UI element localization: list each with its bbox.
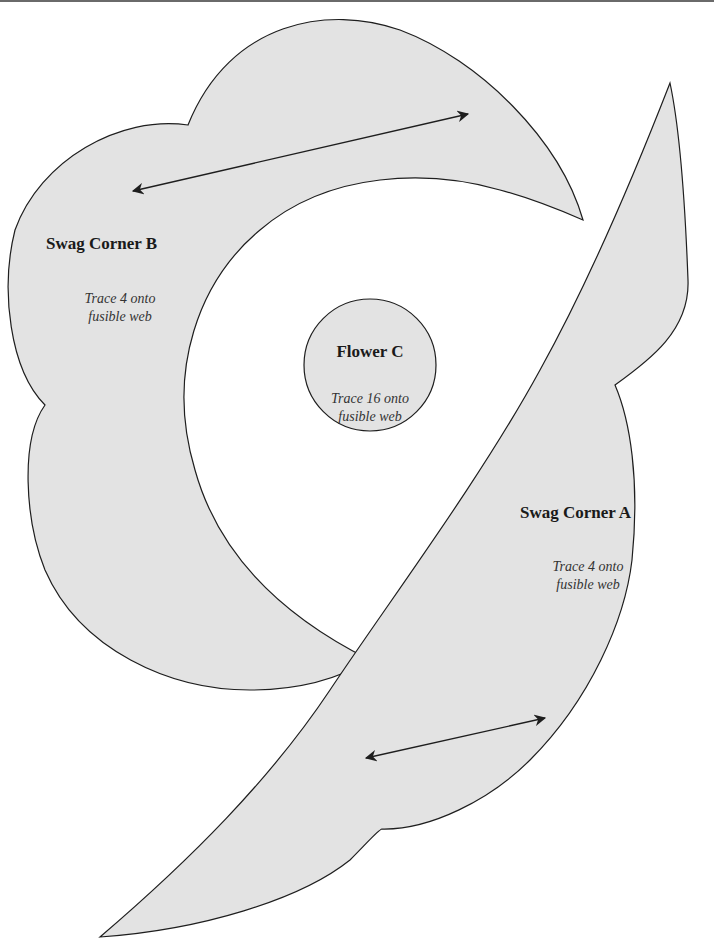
swag-corner-b-instructions: Trace 4 onto fusible web <box>70 290 170 326</box>
swag-corner-a-note-line2: fusible web <box>538 576 638 594</box>
swag-corner-a-instructions: Trace 4 onto fusible web <box>538 558 638 594</box>
flower-c-title: Flower C <box>320 342 420 362</box>
flower-c-note-line2: fusible web <box>320 408 420 426</box>
flower-c-note-line1: Trace 16 onto <box>320 390 420 408</box>
swag-corner-a-note-line1: Trace 4 onto <box>538 558 638 576</box>
swag-corner-b-note-line1: Trace 4 onto <box>70 290 170 308</box>
pattern-shapes <box>0 0 714 948</box>
flower-c-instructions: Trace 16 onto fusible web <box>320 390 420 426</box>
swag-corner-b-note-line2: fusible web <box>70 308 170 326</box>
swag-corner-a-title: Swag Corner A <box>520 503 631 523</box>
pattern-page: Swag Corner B Trace 4 onto fusible web F… <box>0 0 714 948</box>
swag-corner-b-title: Swag Corner B <box>46 234 157 254</box>
